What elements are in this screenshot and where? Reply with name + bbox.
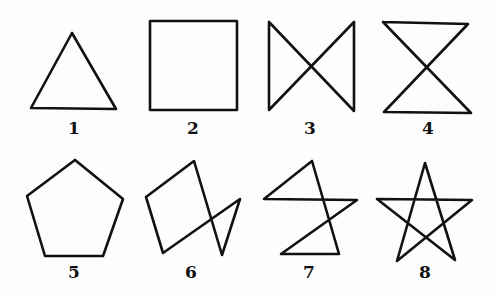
figure-label-1: 1 [68, 118, 80, 138]
figure-3-bowtie: 3 [269, 22, 354, 138]
figure-label-4: 4 [422, 118, 434, 138]
hourglass-shape [383, 22, 471, 113]
pentagram-shape [377, 163, 472, 261]
zigzag-shape [264, 161, 357, 254]
figure-label-3: 3 [304, 118, 316, 138]
figure-label-6: 6 [185, 262, 197, 282]
figure-7-zigzag: 7 [264, 161, 357, 282]
figure-1-triangle: 1 [31, 33, 116, 138]
figure-canvas: 1 2 3 4 5 6 7 8 [0, 0, 497, 297]
figure-label-7: 7 [303, 262, 315, 282]
figure-label-2: 2 [187, 118, 199, 138]
triangle-shape [31, 33, 116, 109]
bowtie-shape [269, 22, 354, 111]
square-shape [150, 21, 237, 110]
figure-8-star: 8 [377, 163, 472, 282]
figure-5-pentagon: 5 [27, 160, 123, 282]
figure-2-square: 2 [150, 21, 237, 138]
pentagon-shape [27, 160, 123, 256]
figure-4-hourglass: 4 [383, 22, 471, 138]
figure-6-crossed-shape: 6 [146, 161, 240, 282]
figure-label-8: 8 [419, 262, 431, 282]
crossed-quadrilateral-shape [146, 161, 240, 255]
figure-label-5: 5 [68, 262, 80, 282]
